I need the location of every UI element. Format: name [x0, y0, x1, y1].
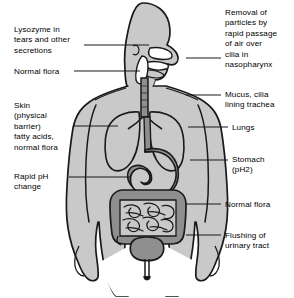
- normal-flora-intestine-label: Normal flora: [225, 200, 291, 210]
- nasopharynx-cilia-label: Removal of particles by rapid passage of…: [225, 8, 291, 70]
- anatomy-diagram: Lysozyme in tears and other secretions N…: [0, 0, 294, 298]
- lungs-label: Lungs: [232, 123, 290, 133]
- stomach-ph2-label: Stomach (pH2): [232, 155, 290, 176]
- head-internal-detail-group: [133, 45, 172, 84]
- lysozyme-label: Lysozyme in tears and other secretions: [14, 25, 84, 56]
- rapid-ph-change-label: Rapid pH change: [14, 172, 74, 193]
- mucus-cilia-trachea-label: Mucus, cilia lining trachea: [225, 90, 291, 111]
- trachea-shape: [141, 78, 148, 117]
- mouth-oral-cavity-shape: [146, 62, 169, 70]
- flushing-urinary-tract-label: Flushing of urinary tract: [225, 231, 291, 252]
- skin-label: Skin (physical barrier) fatty acids, nor…: [14, 101, 76, 153]
- urethra-outlet: [144, 276, 150, 280]
- normal-flora-upper-label: Normal flora: [14, 67, 80, 77]
- bladder-shape: [130, 237, 164, 261]
- esophagus-shape: [144, 117, 151, 152]
